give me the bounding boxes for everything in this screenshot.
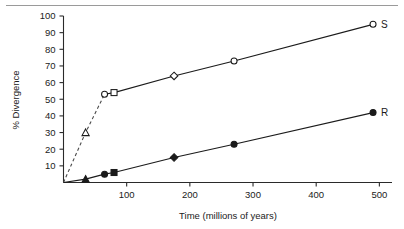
y-tick-label: 70 [45, 60, 56, 71]
data-point-R-5 [231, 141, 237, 147]
x-axis-tick-labels: 100200300400500 [119, 189, 388, 200]
axes-group [64, 16, 393, 183]
series-label-S: S [381, 19, 388, 30]
data-point-S-5 [231, 58, 237, 64]
data-point-R-3 [111, 170, 117, 176]
series-line-solid-R [64, 113, 374, 183]
y-axis-tick-labels: 102030405060708090100 [40, 10, 56, 171]
y-tick-label: 100 [40, 10, 56, 21]
series-layer [64, 21, 377, 182]
data-point-R-2 [102, 171, 108, 177]
y-tick-label: 40 [45, 110, 56, 121]
series-label-R: R [381, 107, 388, 118]
x-tick-label: 300 [245, 189, 261, 200]
series-end-labels: SR [381, 19, 388, 118]
x-tick-label: 100 [119, 189, 135, 200]
x-tick-label: 500 [371, 189, 387, 200]
y-tick-label: 80 [45, 44, 56, 55]
divergence-line-chart: 102030405060708090100 100200300400500 SR… [0, 0, 404, 229]
data-point-R-4 [170, 154, 178, 162]
y-axis-ticks [60, 16, 64, 166]
x-axis-title: Time (millions of years) [179, 210, 277, 221]
series-line-dashed-S [64, 94, 105, 182]
figure-root: 102030405060708090100 100200300400500 SR… [0, 0, 404, 229]
y-tick-label: 90 [45, 27, 56, 38]
data-point-S-2 [102, 91, 108, 97]
x-tick-label: 200 [182, 189, 198, 200]
y-tick-label: 50 [45, 94, 56, 105]
data-point-S-1 [82, 129, 89, 136]
y-tick-label: 10 [45, 160, 56, 171]
x-axis-ticks [127, 183, 380, 187]
data-point-R-6 [370, 110, 376, 116]
y-tick-label: 20 [45, 144, 56, 155]
y-tick-label: 30 [45, 127, 56, 138]
data-point-S-6 [370, 21, 376, 27]
y-axis-title: % Divergence [10, 70, 21, 129]
x-tick-label: 400 [308, 189, 324, 200]
data-point-S-4 [170, 72, 178, 80]
data-point-S-3 [111, 90, 117, 96]
series-line-solid-S [105, 24, 373, 94]
y-tick-label: 60 [45, 77, 56, 88]
